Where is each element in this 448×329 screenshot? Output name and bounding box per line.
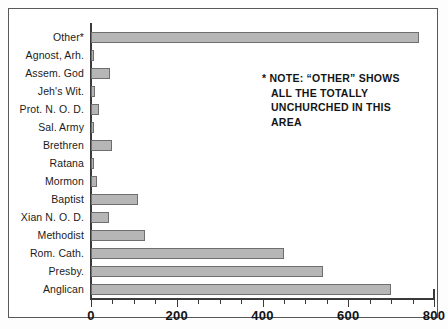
bar-row: Presby. [91,262,323,280]
bar-category-label: Other* [53,31,84,43]
x-tick-label: 0 [87,308,94,323]
bar [91,32,419,43]
bar [91,158,94,169]
bar-category-label: Prot. N. O. D. [20,103,84,115]
bar [91,176,97,187]
bar-row: Mormon [91,172,97,190]
bar-category-label: Brethren [43,139,84,151]
bar-category-label: Presby. [48,265,84,277]
bar [91,68,110,79]
x-tick-label: 400 [251,308,273,323]
x-tick-major [263,300,264,307]
bar-row: Sal. Army [91,118,94,136]
bar [91,86,95,97]
bar-category-label: Ratana [50,157,84,169]
x-tick-label: 600 [337,308,359,323]
bar-category-label: Mormon [45,175,84,187]
bar-category-label: Anglican [43,283,84,295]
bar-row: Assem. God [91,64,110,82]
bar-row: Xian N. O. D. [91,208,109,226]
bar-row: Agnost, Arh. [91,46,94,64]
note-line-2: ALL THE TOTALLY [262,86,437,101]
bar-row: Rom. Cath. [91,244,284,262]
bar [91,212,109,223]
bar-category-label: Sal. Army [38,121,84,133]
x-tick-major [348,300,349,307]
bar-category-label: Rom. Cath. [30,247,84,259]
note-line-4: AREA [262,115,437,130]
bar-category-label: Xian N. O. D. [21,211,84,223]
chart-note: * NOTE: “OTHER” SHOWS ALL THE TOTALLY UN… [262,71,437,129]
bar [91,122,94,133]
bar-row: Brethren [91,136,112,154]
x-tick-minor [391,300,392,304]
bar [91,266,323,277]
bar [91,230,145,241]
bar-row: Baptist [91,190,138,208]
x-tick-major [91,300,92,307]
x-tick-minor [241,300,242,304]
chart-frame: Other*Agnost, Arh.Assem. GodJeh's Wit.Pr… [8,8,438,318]
bar-category-label: Jeh's Wit. [38,85,84,97]
bar [91,194,138,205]
x-tick-minor [134,300,135,304]
x-tick-minor [198,300,199,304]
x-tick-minor [112,300,113,304]
bar-category-label: Baptist [51,193,84,205]
x-tick-label: 800 [423,308,445,323]
bar-row: Anglican [91,280,391,298]
x-tick-minor [284,300,285,304]
x-tick-minor [155,300,156,304]
x-tick-label: 200 [166,308,188,323]
x-tick-major [177,300,178,307]
bar-row: Jeh's Wit. [91,82,95,100]
x-tick-minor [370,300,371,304]
bar-row: Methodist [91,226,145,244]
x-tick-minor [220,300,221,304]
note-line-3: UNCHURCHED IN THIS [262,100,437,115]
bar-category-label: Agnost, Arh. [26,49,84,61]
bar-row: Ratana [91,154,94,172]
bar-category-label: Methodist [38,229,84,241]
bar [91,50,94,61]
bar-category-label: Assem. God [25,67,84,79]
bar-row: Prot. N. O. D. [91,100,99,118]
x-tick-major [434,300,435,307]
chart-page: Other*Agnost, Arh.Assem. GodJeh's Wit.Pr… [0,0,448,329]
bar [91,104,99,115]
plot-area: Other*Agnost, Arh.Assem. GodJeh's Wit.Pr… [91,25,434,297]
note-line-1: * NOTE: “OTHER” SHOWS [262,71,437,86]
x-tick-minor [327,300,328,304]
bar [91,140,112,151]
bar [91,284,391,295]
x-tick-minor [413,300,414,304]
bar-row: Other* [91,28,419,46]
x-tick-minor [305,300,306,304]
bar [91,248,284,259]
